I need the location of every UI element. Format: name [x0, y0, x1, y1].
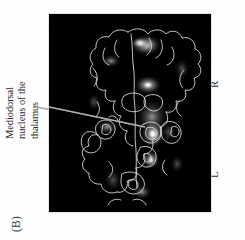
panel-letter: (B): [10, 216, 24, 232]
annotation-line-1: Mediodorsal: [4, 82, 16, 140]
brain-image-panel: [49, 14, 211, 212]
annotation-line-2: nucleus of the: [16, 82, 28, 140]
figure-panel-b: (B) Mediodorsal nucleus of the thalamus …: [0, 0, 245, 240]
annotation-line-3: thalamus: [29, 82, 41, 140]
annotation-label-mediodorsal-nucleus: Mediodorsal nucleus of the thalamus: [4, 82, 41, 140]
coronal-brain-section-overlay: [49, 14, 211, 212]
